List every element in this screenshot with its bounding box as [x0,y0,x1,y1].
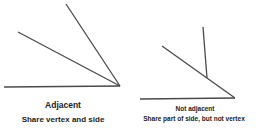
adjacent-shared-side-line [4,86,120,87]
not-adjacent-subtitle: Share part of side, but not vertex [143,116,245,123]
not-adjacent-angles-figure [140,27,235,99]
adjacent-title: Adjacent [45,101,81,110]
not-adjacent-long-ray [162,46,235,98]
adjacent-middle-ray [18,32,120,86]
adjacent-angles-figure [4,4,120,87]
adjacent-top-ray [66,4,120,86]
not-adjacent-base-line [140,98,235,99]
not-adjacent-title: Not adjacent [175,106,214,113]
adjacent-subtitle: Share vertex and side [22,116,105,124]
diagram-canvas [0,0,256,129]
not-adjacent-short-ray [203,27,207,78]
